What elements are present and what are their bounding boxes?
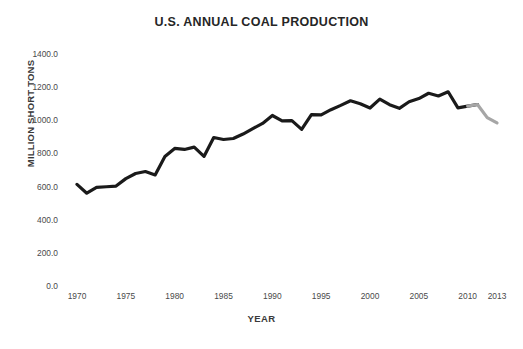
coal-production-chart: U.S. ANNUAL COAL PRODUCTION MILLION SHOR… [0,0,523,349]
data-line [77,92,477,193]
data-series-layer [77,92,497,193]
plot-area [0,0,523,349]
data-line [468,105,497,123]
x-axis-label: YEAR [0,313,523,324]
